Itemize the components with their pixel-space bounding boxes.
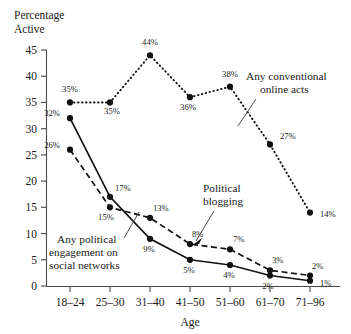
data-point-label: 36% — [180, 102, 196, 112]
y-axis-title-line2: Active — [14, 23, 45, 35]
y-axis-tick-labels: 45 40 35 30 25 20 15 10 5 0 — [26, 44, 38, 292]
chart-canvas: 45 40 35 30 25 20 15 10 5 0 18–24 25–30 … — [0, 0, 351, 334]
annotation-social-line1: Any political — [57, 233, 116, 245]
data-point — [267, 141, 273, 147]
annotation-social-line3: social networks — [49, 259, 120, 271]
data-point-label: 3% — [272, 255, 283, 265]
x-tick-label-0: 18–24 — [56, 296, 85, 308]
x-tick-label-5: 61–70 — [256, 296, 285, 308]
annotation-conventional-online-acts: Any conventional online acts — [238, 70, 327, 126]
data-point-label: 13% — [153, 203, 169, 213]
data-point — [147, 236, 153, 242]
data-point-label: 32% — [44, 108, 60, 118]
x-tick-label-6: 71–96 — [296, 296, 325, 308]
data-point-label: 27% — [280, 131, 296, 141]
y-tick-label-30: 30 — [26, 123, 38, 135]
data-point-label: 1% — [320, 278, 331, 288]
data-point-label: 26% — [44, 140, 60, 150]
annotation-conventional-line1: Any conventional — [246, 70, 327, 82]
data-point — [107, 194, 113, 200]
y-axis-ticks — [41, 50, 47, 286]
x-tick-label-3: 41–50 — [176, 296, 205, 308]
data-point-label: 7% — [233, 234, 244, 244]
data-point-label: 17% — [115, 183, 131, 193]
data-point-label: 35% — [104, 106, 120, 116]
annotation-blogging-line1: Political — [203, 182, 241, 194]
x-axis-ticks — [70, 287, 310, 293]
chart-figure: 45 40 35 30 25 20 15 10 5 0 18–24 25–30 … — [0, 0, 351, 334]
data-point — [307, 209, 313, 215]
annotation-blogging-leader-line — [196, 211, 214, 241]
y-tick-label-5: 5 — [31, 254, 37, 266]
annotation-blogging-line2: blogging — [203, 195, 244, 207]
x-axis-tick-labels: 18–24 25–30 31–40 41–50 51–60 61–70 71–9… — [56, 296, 325, 308]
data-point — [67, 147, 73, 153]
data-point-label: 9% — [143, 244, 154, 254]
data-point — [227, 262, 233, 268]
data-point-label: 5% — [183, 265, 194, 275]
annotation-social-networks: Any political engagement on social netwo… — [49, 212, 139, 271]
data-point — [187, 241, 193, 247]
data-point — [107, 99, 113, 105]
data-point — [67, 115, 73, 121]
y-tick-label-25: 25 — [26, 149, 38, 161]
y-tick-label-15: 15 — [26, 201, 38, 213]
y-tick-label-40: 40 — [26, 70, 38, 82]
y-tick-label-10: 10 — [26, 228, 38, 240]
data-point — [67, 99, 73, 105]
data-point — [107, 204, 113, 210]
data-point-label: 2% — [312, 261, 323, 271]
x-tick-label-4: 51–60 — [216, 296, 245, 308]
data-point — [187, 94, 193, 100]
data-point — [307, 272, 313, 278]
data-point-label: 44% — [142, 37, 158, 47]
data-point — [147, 215, 153, 221]
annotation-conventional-line2: online acts — [260, 83, 309, 95]
x-tick-label-1: 25–30 — [96, 296, 125, 308]
data-point-label: 15% — [98, 212, 114, 222]
data-point — [147, 52, 153, 58]
annotation-social-line2: engagement on — [49, 246, 118, 258]
data-point — [227, 246, 233, 252]
x-tick-label-2: 31–40 — [136, 296, 165, 308]
y-axis-title-line1: Percentage — [14, 9, 64, 22]
data-point — [227, 84, 233, 90]
data-point — [267, 267, 273, 273]
data-point — [187, 257, 193, 263]
y-tick-label-20: 20 — [26, 175, 38, 187]
y-tick-label-0: 0 — [31, 280, 37, 292]
data-point-label: 35% — [62, 84, 78, 94]
y-tick-label-45: 45 — [26, 44, 38, 56]
data-point-label: 38% — [222, 69, 238, 79]
x-axis-title: Age — [180, 316, 199, 329]
data-point-label: 14% — [320, 209, 336, 219]
data-point-label: 4% — [223, 270, 234, 280]
data-point-label: 2% — [262, 281, 273, 291]
y-tick-label-35: 35 — [26, 96, 38, 108]
